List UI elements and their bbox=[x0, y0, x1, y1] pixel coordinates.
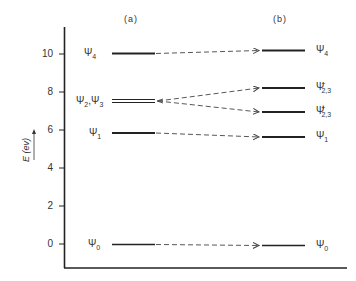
energy-level-diagram bbox=[0, 0, 356, 281]
tick-label-4: 4 bbox=[33, 163, 53, 173]
tick-label-10: 10 bbox=[33, 49, 53, 59]
column-b-label: (b) bbox=[273, 14, 287, 24]
levels-a bbox=[112, 54, 155, 245]
correlation-lines bbox=[156, 51, 259, 246]
label-b-psi23-minus: Ψ−2,3 bbox=[316, 80, 331, 94]
y-ticks bbox=[59, 54, 64, 244]
label-a-psi2-psi3: Ψ2,Ψ3 bbox=[76, 96, 103, 108]
label-a-psi0: Ψ0 bbox=[88, 239, 100, 251]
tick-label-2: 2 bbox=[33, 201, 53, 211]
levels-b bbox=[262, 51, 305, 246]
label-b-psi1: Ψ1 bbox=[316, 131, 328, 143]
column-a-label: (a) bbox=[124, 14, 138, 24]
label-b-psi23-plus: Ψ+2,3 bbox=[316, 104, 331, 118]
tick-label-6: 6 bbox=[33, 125, 53, 135]
label-b-psi0: Ψ0 bbox=[316, 240, 328, 252]
label-b-psi4: Ψ4 bbox=[316, 45, 328, 57]
tick-label-8: 8 bbox=[33, 87, 53, 97]
label-a-psi4: Ψ4 bbox=[84, 48, 96, 60]
tick-label-0: 0 bbox=[33, 239, 53, 249]
label-a-psi1: Ψ1 bbox=[89, 128, 101, 140]
y-axis-label: E (ev) bbox=[21, 138, 31, 162]
